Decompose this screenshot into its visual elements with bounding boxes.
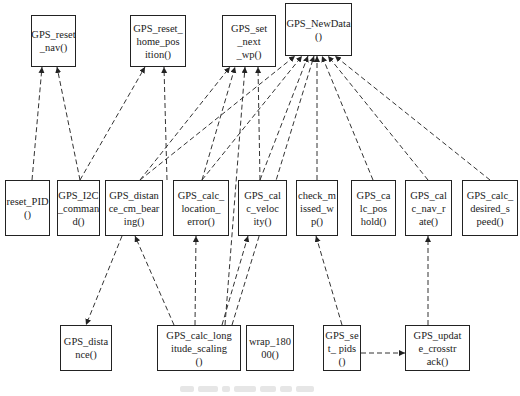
node-GPS_calc_location_error: GPS_calc_ location_ error()	[173, 180, 229, 236]
caption-glyph	[222, 386, 230, 392]
edge-GPS_calc_velocity-to-GPS_NewData	[260, 56, 308, 180]
node-GPS_calc_velocity: GPS_cal c_veloc ity()	[238, 180, 287, 236]
figure-caption	[180, 378, 340, 388]
edge-GPS_calc_poshold-to-GPS_NewData	[322, 56, 373, 180]
edge-GPS_distance_cm_bearing-to-GPS_set_next_wp	[140, 67, 230, 180]
node-check_missed_wp: check_m issed_w p()	[296, 180, 338, 236]
node-GPS_distance: GPS_dista nce()	[60, 325, 112, 371]
caption-glyph	[280, 386, 292, 392]
edge-reset_PID-to-GPS_reset_nav	[32, 67, 42, 180]
edge-GPS_calc_longitude_scaling-to-GPS_calc_velocity	[222, 236, 248, 325]
node-GPS_reset_home_position: GPS_reset_ home_pos ition()	[130, 15, 186, 67]
edge-GPS_calc_location_error-to-GPS_set_next_wp	[202, 67, 235, 180]
node-GPS_NewData: GPS_NewData ()	[285, 3, 352, 56]
caption-glyph	[198, 386, 218, 392]
edge-GPS_I2C_command-to-GPS_reset_nav	[57, 67, 80, 180]
node-GPS_calc_nav_rate: GPS_cal c_nav_r ate()	[405, 180, 452, 236]
node-GPS_reset_nav: GPS_reset _nav()	[31, 15, 76, 67]
caption-glyph	[180, 386, 194, 392]
node-GPS_I2C_command: GPS_I2C _comman d()	[57, 180, 100, 236]
node-reset_PID: reset_PID ()	[5, 180, 50, 236]
edge-GPS_calc_longitude_scaling-to-GPS_calc_location_error	[195, 236, 196, 325]
node-GPS_set_pids: GPS_se t_ pids ()	[323, 325, 361, 371]
node-wrap_18000: wrap_180 00()	[246, 325, 294, 371]
node-GPS_calc_desired_speed: GPS_calc_ desired_s peed()	[462, 180, 518, 236]
caption-glyph	[234, 386, 256, 392]
edge-GPS_distance_cm_bearing-to-GPS_distance	[86, 236, 122, 325]
edge-GPS_calc_location_error-to-GPS_reset_home_position	[164, 67, 167, 180]
caption-glyph	[296, 386, 314, 392]
edge-GPS_set_pids-to-check_missed_wp	[316, 236, 342, 325]
node-GPS_calc_longitude_scaling: GPS_calc_long itude_scaling ()	[157, 325, 241, 371]
node-GPS_update_crosstrack: GPS_updat e_crosstr ack()	[405, 325, 470, 371]
node-GPS_distance_cm_bearing: GPS_distan ce_cm_bear ing()	[105, 180, 163, 236]
edge-GPS_calc_longitude_scaling-to-GPS_distance_cm_bearing	[135, 236, 174, 325]
caption-glyph	[260, 386, 276, 392]
node-GPS_set_next_wp: GPS_set _next _wp()	[222, 15, 276, 67]
node-GPS_calc_poshold: GPS_ca lc_pos hold()	[351, 180, 396, 236]
edge-GPS_I2C_command-to-GPS_reset_home_position	[80, 67, 145, 180]
